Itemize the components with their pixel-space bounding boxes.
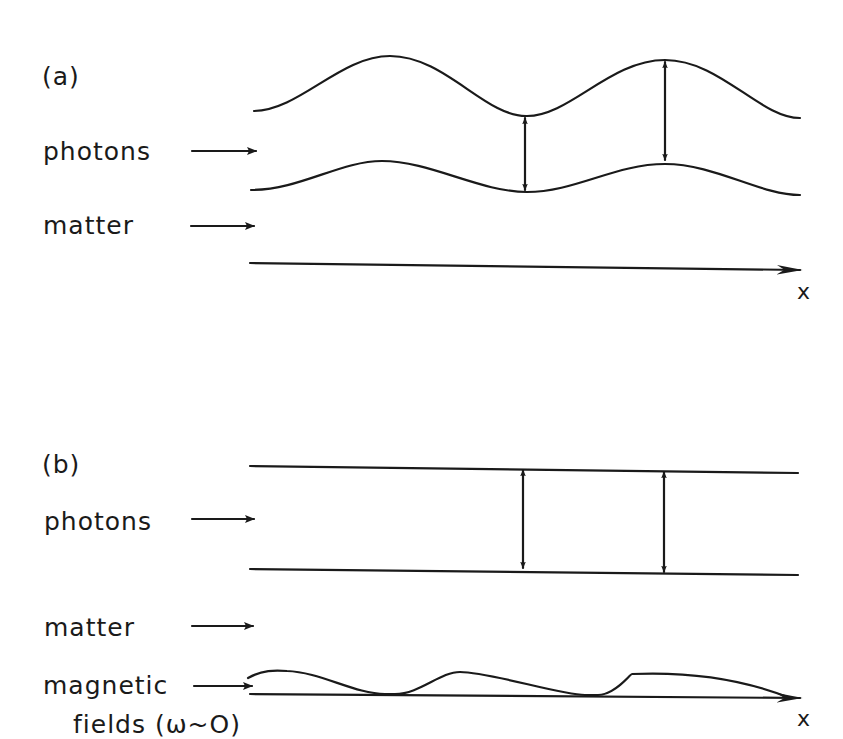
panel-a-x-axis xyxy=(250,263,800,270)
panel-b-x-axis xyxy=(250,694,800,698)
panel-b-lower-line xyxy=(250,569,798,575)
diagram-canvas xyxy=(0,0,843,739)
panel-a-upper-wave xyxy=(254,56,800,118)
